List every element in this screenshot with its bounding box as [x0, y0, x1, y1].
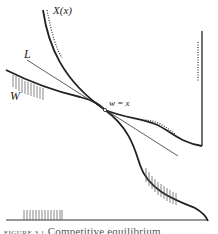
- figure-caption-text: Competitive equilibrium: [48, 225, 161, 234]
- baseline-hatching: [24, 210, 62, 220]
- diagram-canvas: [0, 0, 218, 234]
- intersection-point: [103, 108, 106, 111]
- figure-caption: FIGURE 3.1 Competitive equilibrium: [4, 226, 161, 234]
- l-line-label: L: [24, 48, 31, 60]
- intersection-label: w = x: [109, 99, 130, 108]
- competitive-equilibrium-figure: X(x) L W w = x FIGURE 3.1 Competitive eq…: [0, 0, 218, 234]
- w-curve-label: W: [10, 90, 20, 102]
- figure-number: FIGURE 3.1: [4, 229, 45, 234]
- l-line: [27, 60, 178, 156]
- w-curve: [6, 70, 202, 146]
- x-hatching: [146, 168, 176, 205]
- x-curve-label: X(x): [53, 5, 72, 16]
